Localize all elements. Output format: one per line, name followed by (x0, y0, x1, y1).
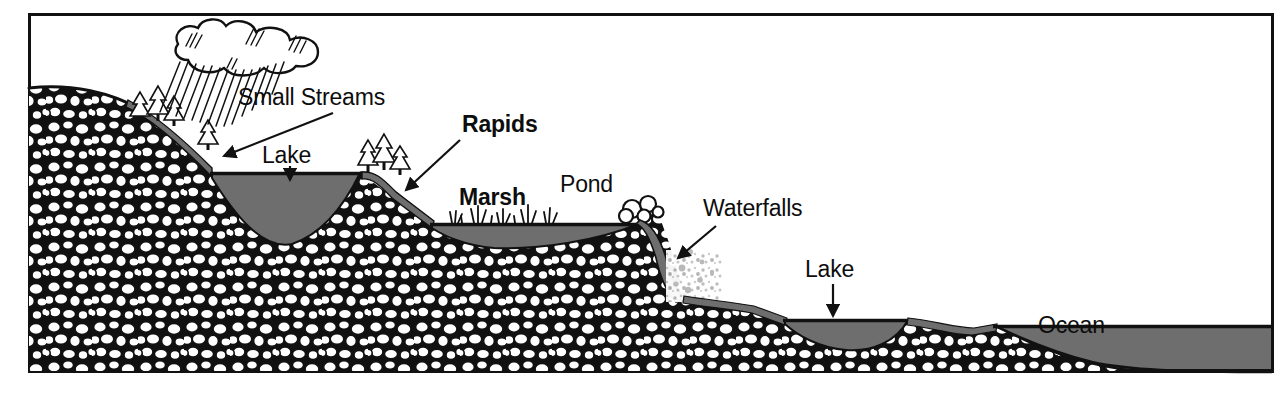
label-rapids: Rapids (462, 111, 537, 137)
label-pond: Pond (560, 171, 613, 197)
label-marsh: Marsh (459, 184, 526, 210)
label-lake-lower: Lake (805, 256, 854, 282)
diagram-canvas: Small Streams Lake Rapids Marsh Pond Wat… (0, 0, 1285, 402)
label-lake-upper: Lake (262, 142, 311, 168)
label-ocean: Ocean (1038, 312, 1105, 338)
waterfall-spray (666, 250, 722, 302)
watershed-diagram: Small Streams Lake Rapids Marsh Pond Wat… (0, 0, 1285, 402)
label-waterfalls: Waterfalls (703, 195, 802, 221)
label-small-streams: Small Streams (238, 84, 385, 110)
